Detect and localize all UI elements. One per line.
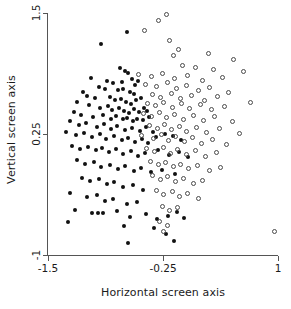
- data-point-open-group: [150, 173, 155, 178]
- data-point-filled-group: [110, 108, 114, 112]
- data-point-open-group: [200, 178, 205, 183]
- data-point-open-group: [150, 92, 155, 97]
- data-point-open-group: [185, 191, 190, 196]
- data-point-filled-group: [172, 239, 176, 243]
- data-point-filled-group: [130, 126, 134, 130]
- data-point-filled-group: [122, 224, 126, 228]
- data-point-open-group: [226, 90, 231, 95]
- data-point-open-group: [179, 101, 184, 106]
- data-point-filled-group: [79, 113, 83, 117]
- data-point-open-group: [152, 149, 157, 154]
- data-point-filled-group: [129, 149, 133, 153]
- data-point-filled-group: [105, 79, 109, 83]
- data-point-filled-group: [131, 119, 135, 123]
- data-point-filled-group: [102, 122, 106, 126]
- data-point-open-group: [167, 38, 172, 43]
- data-point-filled-group: [106, 104, 110, 108]
- data-point-filled-group: [111, 81, 115, 85]
- data-point-filled-group: [125, 202, 129, 206]
- data-point-open-group: [204, 130, 209, 135]
- data-point-filled-group: [141, 188, 145, 192]
- data-point-filled-group: [115, 124, 119, 128]
- data-point-filled-group: [82, 131, 86, 135]
- data-point-filled-group: [74, 133, 78, 137]
- data-point-filled-group: [119, 97, 123, 101]
- data-point-open-group: [148, 159, 153, 164]
- data-point-open-group: [155, 126, 160, 131]
- data-point-open-group: [158, 177, 163, 182]
- data-point-filled-group: [101, 113, 105, 117]
- data-point-filled-group: [68, 191, 72, 195]
- data-point-open-group: [149, 74, 154, 79]
- data-point-open-group: [185, 73, 190, 78]
- data-point-filled-group: [108, 95, 112, 99]
- data-point-filled-group: [103, 199, 107, 203]
- data-point-open-group: [177, 124, 182, 129]
- data-point-filled-group: [86, 145, 90, 149]
- data-point-filled-group: [120, 138, 124, 142]
- x-tick-label: 1: [258, 262, 291, 274]
- data-point-filled-group: [173, 172, 177, 176]
- data-point-open-group: [175, 205, 180, 210]
- data-point-filled-group: [78, 147, 82, 151]
- data-point-filled-group: [95, 193, 99, 197]
- data-point-filled-group: [88, 179, 92, 183]
- data-point-open-group: [174, 86, 179, 91]
- data-point-filled-group: [136, 79, 140, 83]
- data-point-open-group: [160, 71, 165, 76]
- data-point-filled-group: [109, 117, 113, 121]
- data-point-open-group: [184, 152, 189, 157]
- data-point-open-group: [202, 98, 207, 103]
- x-tick-label-group: -1.5-0.251: [0, 262, 291, 280]
- data-point-open-group: [165, 174, 170, 179]
- data-point-filled-group: [105, 182, 109, 186]
- y-tick-label: 1.5: [28, 0, 44, 30]
- data-point-filled-group: [144, 212, 148, 216]
- data-point-open-group: [142, 28, 147, 33]
- data-point-filled-group: [93, 96, 97, 100]
- y-tick-label-text: 0.25: [30, 122, 42, 145]
- data-point-filled-group: [175, 210, 179, 214]
- data-point-open-group: [141, 111, 146, 116]
- data-point-open-group: [199, 141, 204, 146]
- data-point-filled-group: [116, 167, 120, 171]
- data-point-filled-group: [83, 162, 87, 166]
- y-axis-title-text: Vertical screen axis: [5, 75, 18, 184]
- data-point-open-group: [201, 118, 206, 123]
- data-point-open-group: [193, 65, 198, 70]
- data-point-open-group: [196, 88, 201, 93]
- data-point-open-group: [220, 75, 225, 80]
- data-point-open-group: [237, 131, 242, 136]
- data-point-filled-group: [73, 208, 77, 212]
- data-point-open-group: [176, 47, 181, 52]
- x-tick-label: -0.25: [143, 262, 183, 274]
- data-point-open-group: [190, 135, 195, 140]
- data-point-filled-group: [121, 117, 125, 121]
- data-point-filled-group: [132, 92, 136, 96]
- data-point-open-group: [161, 100, 166, 105]
- data-point-filled-group: [99, 165, 103, 169]
- y-axis-title: Vertical screen axis: [0, 0, 22, 258]
- data-point-filled-group: [98, 132, 102, 136]
- data-point-open-group: [169, 127, 174, 132]
- data-point-filled-group: [126, 136, 130, 140]
- data-point-filled-group: [160, 168, 164, 172]
- data-point-open-group: [193, 148, 198, 153]
- data-point-open-group: [181, 176, 186, 181]
- data-point-filled-group: [77, 123, 81, 127]
- data-point-open-group: [151, 136, 156, 141]
- data-point-open-group: [164, 115, 169, 120]
- data-point-open-group: [156, 162, 161, 167]
- data-point-open-group: [196, 196, 201, 201]
- scatter-plot-figure: Vertical screen axis 1.50.25-1 -1.5-0.25…: [0, 0, 291, 309]
- data-point-filled-group: [87, 103, 91, 107]
- data-point-open-group: [178, 96, 183, 101]
- data-point-filled-group: [101, 211, 105, 215]
- data-point-open-group: [195, 163, 200, 168]
- data-point-filled-group: [90, 135, 94, 139]
- data-point-filled-group: [68, 119, 72, 123]
- y-tick-label: 0.25: [28, 117, 44, 151]
- data-point-open-group: [207, 168, 212, 173]
- data-point-open-group: [217, 126, 222, 131]
- data-point-open-group: [169, 91, 174, 96]
